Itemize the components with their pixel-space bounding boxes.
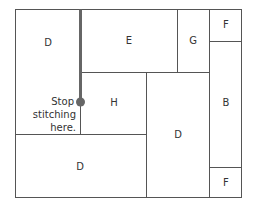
- block-label-f-top: F: [223, 19, 229, 30]
- annotation-line-3: here.: [50, 122, 76, 133]
- annotation-line-1: Stop: [51, 96, 74, 107]
- block-label-d-top-left: D: [44, 37, 52, 48]
- quilt-layout-diagram: D E G F H B D D F Stop stitching here.: [0, 0, 253, 211]
- block-label-e: E: [126, 35, 132, 46]
- block-label-f-bottom: F: [223, 177, 229, 188]
- block-label-d-bottom-left: D: [76, 161, 84, 172]
- block-label-b: B: [223, 97, 230, 108]
- block-label-d-center: D: [174, 129, 182, 140]
- annotation-line-2: stitching: [33, 109, 76, 120]
- block-label-g: G: [189, 35, 197, 46]
- stop-marker-dot: [76, 98, 85, 107]
- block-label-h: H: [110, 97, 118, 108]
